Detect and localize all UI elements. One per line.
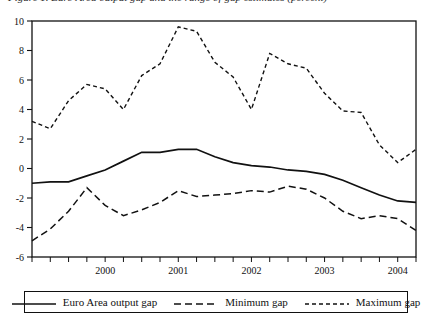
legend-item-maximum-gap: Maximum gap [305, 296, 420, 308]
chart-legend: Euro Area output gap Minimum gap Maximum… [24, 291, 408, 313]
legend-item-minimum-gap: Minimum gap [174, 296, 288, 308]
svg-text:-6: -6 [16, 252, 24, 263]
series-line-euro-area-output-gap [32, 149, 416, 202]
figure-caption: Figure 1. Euro Area output gap and the r… [0, 0, 428, 12]
svg-text:4: 4 [19, 104, 24, 115]
svg-text:2000: 2000 [95, 265, 115, 276]
series-line-maximum-gap [32, 27, 416, 163]
svg-text:-4: -4 [16, 222, 24, 233]
legend-swatch-dashed-icon [174, 301, 218, 303]
chart-x-axis-labels: 20002001200220032004 [95, 265, 408, 276]
figure-caption-text: Figure 1. Euro Area output gap and the r… [8, 0, 327, 3]
svg-text:2001: 2001 [168, 265, 188, 276]
chart-plot-area: 1086420-2-4-6 20002001200220032004 [0, 0, 428, 290]
chart-y-axis-labels: 1086420-2-4-6 [14, 16, 24, 263]
chart-series-lines [32, 27, 416, 241]
svg-text:0: 0 [19, 163, 24, 174]
legend-label-maximum-gap: Maximum gap [356, 296, 420, 308]
svg-text:2004: 2004 [388, 265, 408, 276]
svg-text:8: 8 [19, 45, 24, 56]
svg-text:2003: 2003 [315, 265, 335, 276]
svg-text:2: 2 [19, 134, 24, 145]
legend-swatch-solid-icon [12, 301, 56, 303]
legend-item-euro-area-output-gap: Euro Area output gap [12, 296, 157, 308]
legend-label-euro-area-output-gap: Euro Area output gap [63, 296, 157, 308]
figure-container: Figure 1. Euro Area output gap and the r… [0, 0, 428, 326]
chart-axes [32, 21, 416, 257]
chart-tick-marks [27, 21, 416, 262]
svg-text:2002: 2002 [241, 265, 261, 276]
legend-swatch-dotted-icon [305, 301, 349, 303]
legend-label-minimum-gap: Minimum gap [225, 296, 288, 308]
svg-text:-2: -2 [16, 193, 24, 204]
svg-text:10: 10 [14, 16, 24, 27]
svg-text:6: 6 [19, 75, 24, 86]
series-line-minimum-gap [32, 186, 416, 241]
